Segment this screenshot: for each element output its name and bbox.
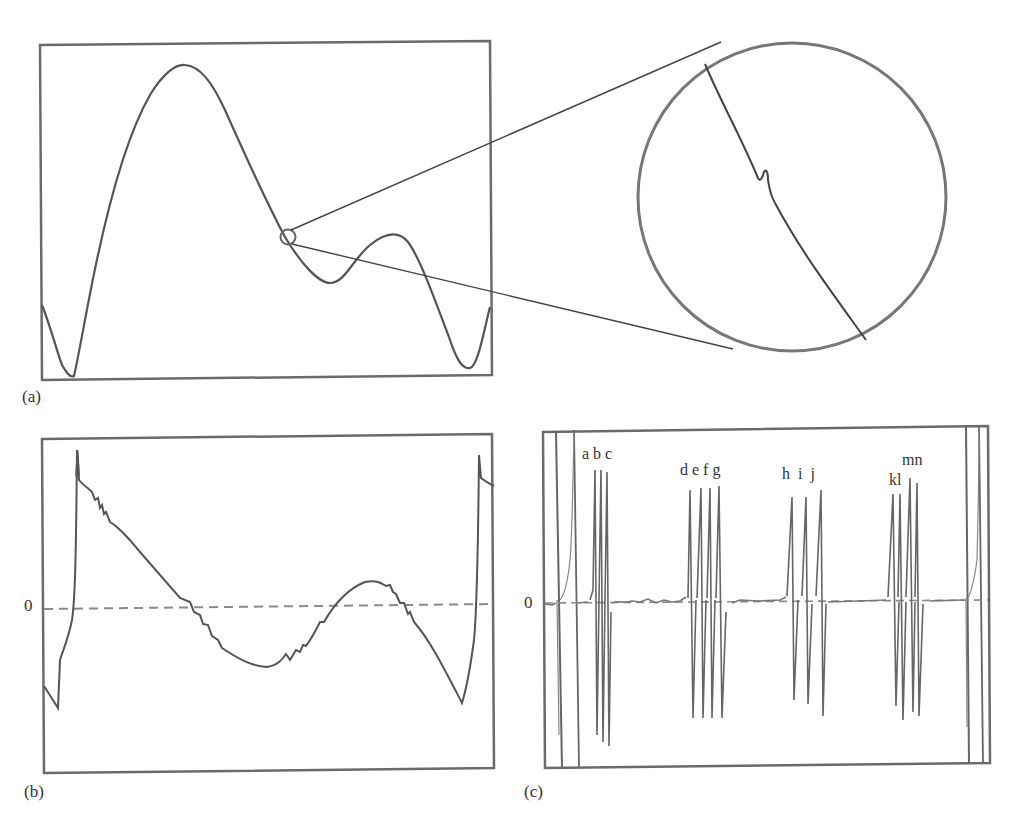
spikes xyxy=(590,470,923,746)
panel-b-frame xyxy=(42,434,494,773)
spike-label-group-abc: a b c xyxy=(582,446,612,462)
spike-e xyxy=(697,488,706,718)
panel-b-waveform xyxy=(44,450,494,708)
spike-d xyxy=(688,490,696,718)
panel-b xyxy=(42,434,494,773)
edge-line xyxy=(979,426,983,763)
zero-line-b xyxy=(44,604,493,609)
spike-f xyxy=(707,488,715,718)
spike-c xyxy=(605,472,611,746)
figure-canvas xyxy=(0,0,1016,830)
panel-a-label: (a) xyxy=(22,387,41,407)
spike-label-group-hij: h i j xyxy=(782,466,815,482)
panel-c-label: (c) xyxy=(524,782,543,802)
spike-label-group-mn: mn xyxy=(902,452,922,468)
spike-b xyxy=(599,470,605,742)
panel-b-zero-label: 0 xyxy=(24,596,33,616)
spike-label-group-defg: d e f g xyxy=(680,462,720,478)
panel-a-waveform xyxy=(42,65,490,376)
spike-m xyxy=(906,478,915,712)
edge-line xyxy=(574,430,579,767)
magnified-inset-circle xyxy=(638,43,946,351)
panel-a xyxy=(40,41,946,380)
spike-h xyxy=(787,497,798,700)
spike-j xyxy=(816,490,826,716)
spike-n xyxy=(915,483,923,716)
spike-label-group-kl: kl xyxy=(889,472,901,488)
panel-c xyxy=(543,426,990,768)
panel-c-zero-label: 0 xyxy=(524,593,533,613)
panel-b-label: (b) xyxy=(24,782,44,802)
